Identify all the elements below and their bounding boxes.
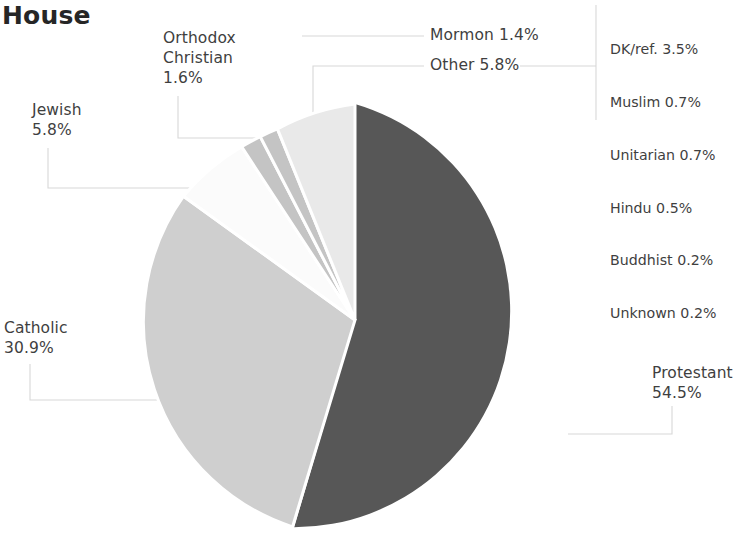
slice-label-orthodox-christian: Orthodox Christian 1.6% xyxy=(163,28,236,88)
other-breakdown-item: Unknown 0.2% xyxy=(610,305,716,323)
other-breakdown-item: DK/ref. 3.5% xyxy=(610,41,716,59)
slice-label-protestant: Protestant 54.5% xyxy=(652,363,733,403)
chart-canvas: House Jewish 5.8% Orthodox Christian 1.6… xyxy=(0,0,739,554)
pie-slices xyxy=(143,104,510,527)
slice-label-mormon: Mormon 1.4% xyxy=(430,25,539,45)
slice-label-other: Other 5.8% xyxy=(430,55,519,75)
other-breakdown-item: Buddhist 0.2% xyxy=(610,252,716,270)
other-breakdown-list: DK/ref. 3.5% Muslim 0.7% Unitarian 0.7% … xyxy=(610,6,716,358)
slice-label-catholic: Catholic 30.9% xyxy=(4,318,68,358)
chart-title: House xyxy=(2,1,91,31)
other-breakdown-item: Unitarian 0.7% xyxy=(610,147,716,165)
other-breakdown-item: Muslim 0.7% xyxy=(610,94,716,112)
other-breakdown-item: Hindu 0.5% xyxy=(610,200,716,218)
leader-line-protestant xyxy=(568,406,672,434)
slice-label-jewish: Jewish 5.8% xyxy=(32,100,82,140)
